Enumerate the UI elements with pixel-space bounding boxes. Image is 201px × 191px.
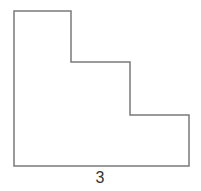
staircase-diagram: 3 bbox=[0, 0, 201, 191]
bottom-side-label: 3 bbox=[96, 169, 105, 186]
staircase-shape bbox=[14, 11, 189, 166]
